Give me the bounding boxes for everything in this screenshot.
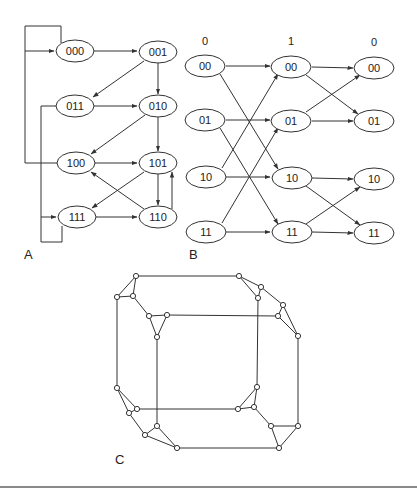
node-label: 00 (199, 60, 211, 72)
panel-a-node-010: 010 (139, 95, 177, 117)
node-label: 000 (66, 45, 84, 57)
edge-b2-11-10 (306, 187, 360, 224)
node-label: 01 (368, 115, 380, 127)
edge-101-111 (92, 172, 144, 208)
node-label: 111 (69, 211, 86, 223)
panel-b-col1-node-11: 11 (272, 221, 312, 243)
panel-b: 0 1 0 00 01 10 11 00 (185, 35, 394, 262)
edge-011-111 (41, 106, 56, 217)
node-label: 00 (368, 62, 380, 74)
panel-c-nodes (114, 273, 300, 450)
node-label: 00 (285, 61, 297, 73)
panel-b-col2-node-00: 00 (354, 57, 394, 79)
edge-001-011 (93, 61, 144, 97)
node-label: 11 (286, 226, 297, 238)
panel-b-col2-node-10: 10 (354, 168, 394, 190)
node-label: 11 (200, 226, 211, 238)
panel-c-edges (117, 276, 298, 448)
panel-a-node-100: 100 (57, 152, 95, 174)
panel-b-col0-node-11: 11 (186, 221, 226, 243)
node-label: 011 (66, 100, 84, 112)
panel-b-label: B (189, 247, 198, 262)
node-label: 10 (200, 171, 212, 183)
node-label: 010 (149, 100, 167, 112)
node-label: 100 (67, 157, 85, 169)
panel-b-edges (220, 66, 360, 233)
panel-a-node-011: 011 (56, 95, 94, 117)
node-label: 101 (149, 157, 167, 169)
edge-010-100 (91, 115, 145, 154)
node-label: 11 (368, 227, 379, 239)
edge-b1-11-01 (222, 128, 278, 223)
panel-a: 000 001 011 010 100 101 111 110 (24, 26, 177, 262)
panel-c: C (114, 273, 300, 467)
edge-b2-10-10 (312, 178, 353, 179)
panel-b-col0-node-01: 01 (185, 109, 225, 131)
panel-a-node-110: 110 (139, 206, 177, 228)
panel-b-col2-node-11: 11 (354, 222, 394, 244)
node-label: 10 (368, 173, 380, 185)
panel-a-node-000: 000 (56, 40, 94, 62)
edge-000-self-loop (25, 26, 61, 51)
node-label: 01 (199, 114, 211, 126)
edge-b1-10-00 (222, 74, 278, 168)
panel-a-label: A (24, 247, 33, 262)
node-label: 110 (149, 211, 167, 223)
panel-a-node-101: 101 (139, 152, 177, 174)
edge-b2-00-00 (312, 67, 353, 68)
column-label-2: 0 (371, 36, 377, 48)
column-label-0: 0 (202, 35, 208, 47)
figure-canvas: 000 001 011 010 100 101 111 110 (0, 0, 417, 490)
bottom-divider (0, 486, 417, 488)
panel-b-col1-node-10: 10 (272, 167, 312, 189)
node-label: 001 (149, 46, 167, 58)
edge-b2-11-11 (312, 232, 353, 233)
panel-b-col1-node-01: 01 (271, 110, 311, 132)
node-label: 10 (286, 172, 298, 184)
panel-b-col2-node-01: 01 (354, 110, 394, 132)
panel-a-node-001: 001 (139, 41, 177, 63)
panel-b-col0-node-10: 10 (186, 166, 226, 188)
panel-a-node-111: 111 (58, 206, 96, 228)
panel-b-col1-node-00: 00 (271, 56, 311, 78)
panel-b-col0-node-00: 00 (185, 55, 225, 77)
column-label-1: 1 (288, 35, 294, 47)
panel-c-label: C (115, 452, 124, 467)
node-label: 01 (285, 115, 297, 127)
